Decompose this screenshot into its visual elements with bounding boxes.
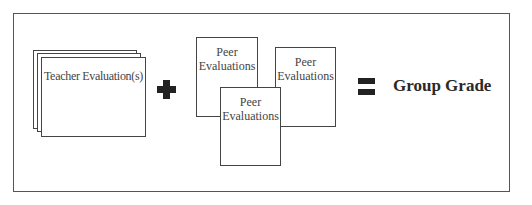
peer-label-2-line2: Evaluations <box>276 69 335 83</box>
peer-label-3-line2: Evaluations <box>221 109 280 123</box>
peer-label-1-line2: Evaluations <box>197 59 257 73</box>
peer-label-2-line1: Peer <box>276 55 335 69</box>
plus-icon <box>157 80 176 99</box>
peer-label-3: Peer Evaluations <box>221 95 280 123</box>
peer-label-3-line1: Peer <box>221 95 280 109</box>
peer-label-1-line1: Peer <box>197 45 257 59</box>
peer-evaluation-sheet-2: Peer Evaluations <box>275 47 336 127</box>
peer-label-1: Peer Evaluations <box>197 45 257 73</box>
teacher-evaluation-sheet: Teacher Evaluation(s) <box>41 57 146 137</box>
group-grade-label: Group Grade <box>393 76 491 96</box>
peer-label-2: Peer Evaluations <box>276 55 335 83</box>
peer-evaluation-sheet-3: Peer Evaluations <box>220 87 281 166</box>
teacher-evaluation-label: Teacher Evaluation(s) <box>42 69 145 83</box>
